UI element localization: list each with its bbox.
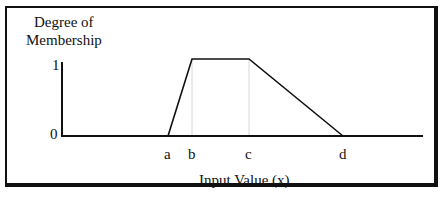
x-tick-a: a [164,146,171,162]
trapezoid-membership-curve [168,59,343,136]
y-tick-0: 0 [50,126,58,142]
x-axis-label: Input Value (x) [199,172,290,188]
x-tick-b: b [188,146,196,162]
x-tick-d: d [339,146,347,162]
y-axis-label-line1: Degree of [34,14,94,30]
x-tick-c: c [245,146,252,162]
y-tick-1: 1 [52,57,60,73]
y-axis-label-line2: Membership [26,32,102,48]
